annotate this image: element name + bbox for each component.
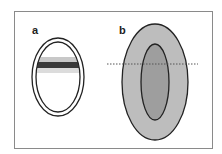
panel-b-oval — [122, 24, 188, 140]
diagram-canvas — [0, 0, 222, 154]
inner-oval — [141, 44, 169, 120]
panel-a-oval — [30, 38, 90, 116]
